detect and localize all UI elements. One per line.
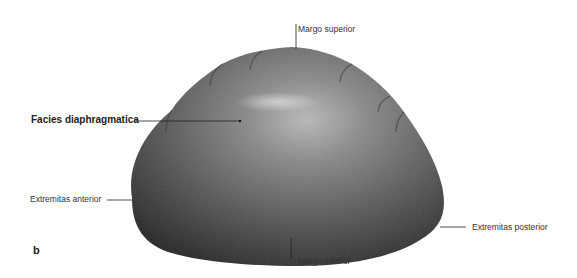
spleen-illustration (0, 0, 577, 278)
label-extremitas-anterior: Extremitas anterior (30, 194, 101, 204)
pointer-dot (239, 120, 241, 122)
anatomical-figure: Margo superior Facies diaphragmatica Ext… (0, 0, 577, 278)
label-facies-diaphragmatica: Facies diaphragmatica (31, 115, 139, 125)
panel-letter: b (33, 244, 40, 256)
label-margo-superior: Margo superior (298, 24, 355, 34)
surface-highlight (236, 92, 320, 112)
label-extremitas-posterior: Extremitas posterior (472, 222, 548, 232)
label-margo-inferior: Margo inferior (298, 256, 350, 266)
